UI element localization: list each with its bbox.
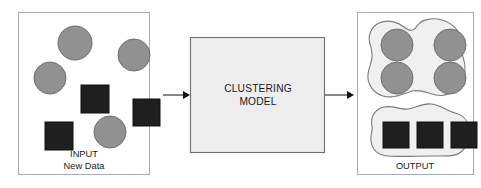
input-panel: INPUT New Data [19, 13, 161, 175]
model-label-line1: CLUSTERING [224, 83, 292, 94]
input-square-3 [45, 122, 73, 150]
arrow-input-to-model-head [183, 91, 190, 99]
input-square-2 [133, 99, 160, 126]
output-circle-1 [381, 29, 413, 61]
output-square-1 [383, 122, 409, 148]
input-label-secondary: New Data [64, 161, 106, 171]
input-circle-4 [94, 116, 126, 148]
clustering-model-box: CLUSTERING MODEL [191, 38, 325, 153]
output-square-2 [417, 122, 443, 148]
arrow-model-to-output [325, 91, 354, 99]
input-label-primary: INPUT [70, 149, 98, 159]
circle-cluster-blob [368, 19, 466, 97]
diagram-canvas: INPUT New Data CLUSTERING MODEL [0, 0, 481, 188]
model-label-line2: MODEL [239, 96, 276, 107]
input-circle-3 [34, 62, 66, 94]
output-square-3 [451, 122, 477, 148]
input-circle-2 [118, 39, 150, 71]
arrow-model-to-output-head [347, 91, 354, 99]
arrow-input-to-model [163, 91, 190, 99]
output-circle-3 [381, 62, 413, 94]
output-circle-4 [434, 62, 466, 94]
output-label: OUTPUT [396, 161, 435, 171]
output-circle-2 [434, 29, 466, 61]
input-square-1 [81, 85, 109, 113]
input-circle-1 [58, 26, 92, 60]
output-panel: OUTPUT [358, 13, 478, 175]
clustering-diagram: INPUT New Data CLUSTERING MODEL [0, 0, 481, 188]
